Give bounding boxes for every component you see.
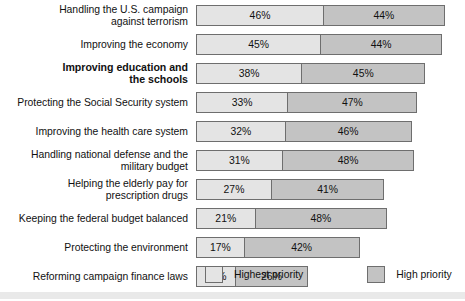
bar-area: 33%47% [196,92,417,113]
chart-row: Improving education and the schools38%45… [0,59,465,88]
chart-row: Protecting the Social Security system33%… [0,88,465,117]
bar-segment-high-priority: 45% [301,64,424,83]
footer-band [0,292,465,299]
bar-segment-high-priority: 46% [285,122,411,141]
chart-row: Handling the U.S. campaign against terro… [0,1,465,30]
bar-area: 45%44% [196,34,442,55]
legend-swatch-high-priority [367,266,385,283]
bar-segment-highest-priority: 33% [197,93,287,112]
legend-item-high-priority: High priority [367,266,451,283]
chart-row: Helping the elderly pay for prescription… [0,175,465,204]
row-label: Protecting the Social Security system [0,97,196,109]
stacked-bar: 17%42% [196,237,360,258]
chart-row: Protecting the environment17%42% [0,233,465,262]
bar-segment-high-priority: 44% [323,6,444,25]
stacked-bar: 27%41% [196,179,384,200]
bar-area: 38%45% [196,63,425,84]
bar-segment-high-priority: 48% [255,209,387,228]
bar-segment-high-priority: 48% [282,151,414,170]
stacked-bar: 38%45% [196,63,425,84]
bar-segment-highest-priority: 31% [197,151,282,170]
bar-segment-highest-priority: 17% [197,238,244,257]
legend-label-high-priority: High priority [396,269,451,280]
legend-item-highest-priority: Highest priority [205,266,303,283]
stacked-bar-chart: Handling the U.S. campaign against terro… [0,0,465,301]
bar-segment-high-priority: 42% [244,238,359,257]
row-label: Keeping the federal budget balanced [0,213,196,225]
stacked-bar: 31%48% [196,150,414,171]
legend-swatch-highest-priority [205,266,223,283]
bar-segment-highest-priority: 46% [197,6,323,25]
row-label: Handling the U.S. campaign against terro… [0,4,196,27]
bar-segment-highest-priority: 27% [197,180,271,199]
stacked-bar: 46%44% [196,5,445,26]
row-label: Improving the health care system [0,126,196,138]
bar-segment-high-priority: 41% [271,180,383,199]
bar-area: 46%44% [196,5,445,26]
stacked-bar: 32%46% [196,121,412,142]
bar-area: 21%48% [196,208,387,229]
row-label: Helping the elderly pay for prescription… [0,178,196,201]
bar-area: 32%46% [196,121,412,142]
chart-row: Handling national defense and the milita… [0,146,465,175]
chart-row: Improving the economy45%44% [0,30,465,59]
row-label: Handling national defense and the milita… [0,149,196,172]
bar-segment-highest-priority: 45% [197,35,320,54]
chart-row: Keeping the federal budget balanced21%48… [0,204,465,233]
bar-segment-high-priority: 44% [320,35,441,54]
bar-area: 31%48% [196,150,414,171]
bar-segment-highest-priority: 21% [197,209,255,228]
bar-area: 27%41% [196,179,384,200]
chart-row: Improving the health care system32%46% [0,117,465,146]
bar-segment-high-priority: 47% [287,93,416,112]
row-label: Improving education and the schools [0,62,196,85]
legend-label-highest-priority: Highest priority [234,269,303,280]
stacked-bar: 33%47% [196,92,417,113]
row-label: Improving the economy [0,39,196,51]
bar-area: 17%42% [196,237,360,258]
row-label: Protecting the environment [0,242,196,254]
bar-segment-highest-priority: 38% [197,64,301,83]
stacked-bar: 45%44% [196,34,442,55]
bar-segment-highest-priority: 32% [197,122,285,141]
stacked-bar: 21%48% [196,208,387,229]
chart-legend: Highest priority High priority [0,262,465,286]
